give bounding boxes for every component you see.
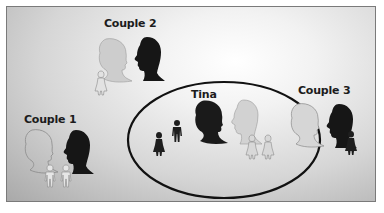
couple-3-group [291,104,357,155]
couple-1-group [25,130,94,187]
child-boy-icon [61,165,71,187]
child-girl-light-icon [262,135,274,159]
child-boy-dark-icon [172,120,182,142]
tina-group [153,100,274,159]
woman-outline-silhouette-icon [25,130,58,173]
man-light-silhouette-icon [232,100,262,144]
couple-2-group [95,37,165,95]
child-boy-icon [45,165,55,187]
man-silhouette-icon [135,37,165,81]
tina-silhouette-icon [195,101,228,144]
child-girl-dark-icon [153,132,165,156]
child-girl-icon [95,71,107,95]
diagram-figures [0,0,384,213]
